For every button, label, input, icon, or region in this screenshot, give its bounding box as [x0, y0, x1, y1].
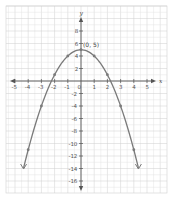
- x-tick-label: 4: [132, 84, 136, 90]
- data-point: [27, 148, 30, 151]
- x-tick-label: -3: [38, 84, 44, 90]
- y-axis-label: y: [79, 9, 84, 17]
- y-tick-label: 2: [75, 66, 79, 72]
- y-tick-label: 6: [75, 41, 79, 47]
- annotations: (0, 5): [83, 41, 99, 48]
- x-tick-label: 3: [119, 84, 123, 90]
- y-tick-label: -2: [72, 91, 77, 97]
- x-tick-label: -5: [12, 84, 18, 90]
- y-tick-label: -4: [72, 103, 78, 109]
- x-tick-label: 0: [77, 84, 81, 90]
- x-tick-label: -4: [25, 84, 31, 90]
- x-tick-label: -2: [51, 84, 56, 90]
- y-tick-label: -8: [72, 128, 78, 134]
- data-point: [40, 105, 43, 108]
- y-tick-label: 8: [75, 28, 79, 34]
- data-point: [53, 73, 56, 76]
- data-point: [80, 48, 83, 51]
- x-tick-label: -1: [64, 84, 69, 90]
- x-tick-label: 1: [93, 84, 97, 90]
- data-point: [119, 105, 122, 108]
- parabola-graph: xy -5-4-3-2-10123458642-2-4-6-8-10-12-14…: [0, 0, 177, 202]
- y-tick-label: -6: [72, 116, 78, 122]
- data-point: [106, 73, 109, 76]
- y-tick-label: -14: [68, 166, 77, 172]
- y-tick-label: -12: [68, 153, 77, 159]
- data-point: [132, 148, 135, 151]
- x-tick-label: 5: [145, 84, 149, 90]
- data-point: [93, 55, 96, 58]
- grid: [6, 6, 167, 193]
- y-tick-label: -10: [68, 141, 77, 147]
- data-point: [66, 55, 69, 58]
- vertex-label: (0, 5): [83, 41, 99, 48]
- y-tick-label: -16: [68, 178, 77, 184]
- x-tick-label: 2: [106, 84, 110, 90]
- y-tick-label: 4: [75, 53, 79, 59]
